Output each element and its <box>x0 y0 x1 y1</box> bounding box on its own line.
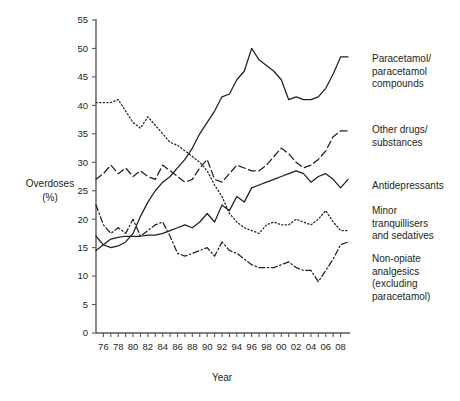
x-axis-label: Year <box>212 372 233 383</box>
legend-label-2: Antidepressants <box>372 180 444 191</box>
x-tick-label: 00 <box>276 341 287 352</box>
legend-label-4: Non-opiate <box>372 253 421 264</box>
y-tick-label: 10 <box>77 270 88 281</box>
x-tick-label: 80 <box>128 341 139 352</box>
y-tick-label: 55 <box>77 14 88 25</box>
y-axis-label-line2: (%) <box>42 192 58 203</box>
legend-label-0: compounds <box>372 78 424 89</box>
x-tick-label: 92 <box>217 341 228 352</box>
chart-figure: 0510152025303540455055 76788082848688909… <box>0 0 460 401</box>
x-tick-label: 96 <box>246 341 257 352</box>
y-tick-label: 25 <box>77 185 88 196</box>
y-tick-label: 30 <box>77 157 88 168</box>
legend-label-1: Other drugs/ <box>372 124 428 135</box>
x-tick-label: 94 <box>232 341 243 352</box>
legend-label-1: substances <box>372 137 423 148</box>
y-axis-label-line1: Overdoses <box>26 178 74 189</box>
y-tick-label: 45 <box>77 71 88 82</box>
legend-label-3: and sedatives <box>372 230 434 241</box>
x-tick-label: 02 <box>291 341 302 352</box>
y-tick-label: 40 <box>77 100 88 111</box>
x-tick-label: 88 <box>187 341 198 352</box>
x-tick-label: 08 <box>335 341 346 352</box>
legend-label-4: (excluding <box>372 278 418 289</box>
legend-label-4: analgesics <box>372 266 419 277</box>
legend-label-3: Minor <box>372 205 398 216</box>
x-tick-label: 98 <box>261 341 272 352</box>
y-tick-label: 20 <box>77 214 88 225</box>
x-tick-label: 78 <box>113 341 124 352</box>
x-tick-label: 82 <box>143 341 154 352</box>
y-tick-label: 15 <box>77 242 88 253</box>
legend-label-0: Paracetamol/ <box>372 53 431 64</box>
x-tick-label: 04 <box>306 341 317 352</box>
legend-label-3: tranquillisers <box>372 218 428 229</box>
legend-label-4: paracetamol) <box>372 291 430 302</box>
x-tick-label: 84 <box>157 341 168 352</box>
x-tick-label: 90 <box>202 341 213 352</box>
y-tick-label: 0 <box>83 327 88 338</box>
x-tick-label: 06 <box>320 341 331 352</box>
x-tick-label: 76 <box>98 341 109 352</box>
x-tick-label: 86 <box>172 341 183 352</box>
y-tick-label: 35 <box>77 128 88 139</box>
y-tick-label: 50 <box>77 43 88 54</box>
y-tick-label: 5 <box>83 299 88 310</box>
legend-label-0: paracetamol <box>372 66 427 77</box>
overdoses-line-chart: 0510152025303540455055 76788082848688909… <box>0 0 460 401</box>
